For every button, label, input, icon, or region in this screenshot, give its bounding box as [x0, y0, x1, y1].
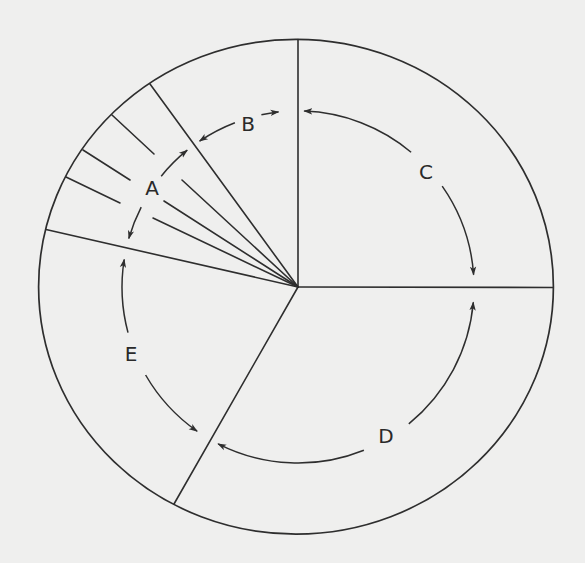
- a-divider-2-inner: [164, 201, 298, 287]
- a-divider-2-outer: [83, 150, 130, 180]
- label-b: B: [241, 112, 255, 136]
- a-divider-1-inner: [182, 180, 298, 287]
- arrow-b-right: [261, 112, 278, 115]
- arrow-e-down: [146, 375, 198, 431]
- a-divider-1-outer: [112, 115, 154, 154]
- arrow-a-down: [129, 207, 141, 238]
- arrow-d-left: [218, 444, 364, 463]
- a-divider-3-outer: [66, 177, 120, 203]
- arrow-c-down: [442, 186, 473, 275]
- label-e: E: [125, 342, 138, 366]
- diagram-stage: A B C D E: [0, 0, 585, 563]
- arrow-c-left: [304, 111, 411, 152]
- arrow-a-up: [161, 150, 187, 176]
- arrow-b-left: [200, 123, 235, 141]
- sector-diagram: A B C D E: [0, 0, 585, 563]
- boundary-e-a: [46, 230, 298, 288]
- arrow-d-up: [409, 302, 474, 424]
- arrow-e-up: [122, 260, 128, 333]
- sector-labels: A B C D E: [125, 112, 433, 448]
- label-d: D: [378, 424, 393, 448]
- boundary-a-b: [150, 84, 298, 287]
- label-a: A: [145, 176, 159, 200]
- a-divider-3-inner: [153, 218, 298, 287]
- boundary-c-d: [298, 287, 553, 288]
- boundary-d-e: [174, 287, 298, 504]
- label-c: C: [419, 160, 433, 184]
